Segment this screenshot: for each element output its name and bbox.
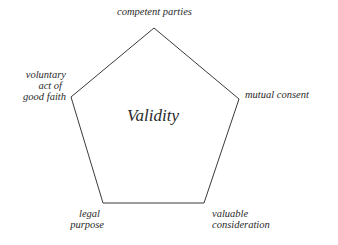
label-line: consideration bbox=[212, 219, 270, 230]
center-label-validity: Validity bbox=[127, 110, 179, 121]
label-mutual-consent: mutual consent bbox=[245, 89, 309, 100]
label-legal-purpose: legal purpose bbox=[64, 208, 104, 230]
label-line: valuable bbox=[212, 208, 270, 219]
label-line: good faith bbox=[4, 91, 66, 102]
label-competent-parties: competent parties bbox=[117, 6, 192, 17]
label-line: voluntary bbox=[4, 69, 66, 80]
label-voluntary-act-of-good-faith: voluntary act of good faith bbox=[4, 69, 66, 102]
validity-pentagon-diagram: competent parties mutual consent valuabl… bbox=[0, 0, 338, 245]
label-valuable-consideration: valuable consideration bbox=[212, 208, 270, 230]
label-line: purpose bbox=[64, 219, 104, 230]
label-line: act of bbox=[4, 80, 66, 91]
label-line: legal bbox=[64, 208, 104, 219]
